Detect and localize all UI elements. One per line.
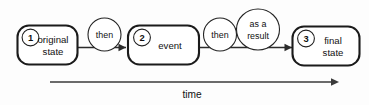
time-axis: time [50, 78, 339, 100]
time-axis-label: time [182, 89, 202, 100]
node-original-state[interactable]: 1 original state [18, 26, 78, 65]
edge-label-text: then [211, 30, 228, 40]
edge-label-as-a-result: as a result [237, 9, 280, 50]
node-final-state[interactable]: 3 final state [293, 27, 360, 66]
edge-label-text: then [96, 30, 113, 40]
time-axis-arrowhead [331, 78, 339, 86]
edge-label-text-line2: result [247, 31, 269, 41]
node-number: 2 [139, 32, 144, 43]
node-label-line2: state [43, 46, 64, 57]
edge-label-then-2: then [204, 18, 237, 51]
state-transition-diagram: 1 original state 2 event 3 final state t… [0, 0, 369, 105]
edge-label-then-1: then [88, 18, 121, 51]
edge-label-text-line1: as a [250, 19, 267, 29]
diagram-canvas: 1 original state 2 event 3 final state t… [0, 0, 369, 105]
node-label-line1: event [158, 40, 182, 51]
node-label-line1: original [38, 34, 69, 45]
node-number: 1 [28, 32, 33, 43]
node-number: 3 [303, 33, 308, 44]
node-event[interactable]: 2 event [128, 26, 199, 65]
node-label-line2: state [323, 47, 344, 58]
node-label-line1: final [324, 35, 342, 46]
